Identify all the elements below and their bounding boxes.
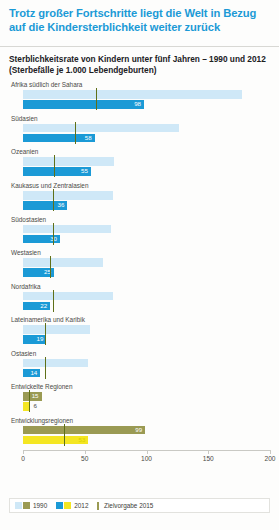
chart-group: Entwicklungsregionen9953 — [9, 417, 270, 451]
chart-group: Kaukasus und Zentralasien36 — [9, 182, 270, 216]
bar-1990: 99 — [23, 426, 145, 435]
bar-1990 — [23, 292, 113, 301]
bar-value-2012: 22 — [40, 302, 47, 311]
target-line-2015 — [29, 390, 30, 412]
target-line-2015 — [53, 290, 54, 312]
page-title: Trotz großer Fortschritte liegt die Welt… — [9, 7, 270, 34]
chart-group: Ostasien14 — [9, 350, 270, 384]
bar-track: 19 — [23, 325, 270, 350]
chart-group: Nordafrika22 — [9, 283, 270, 317]
bar-track: 9953 — [23, 426, 270, 451]
bar-value-2012: 58 — [85, 134, 92, 143]
legend-swatch-1990-olive — [23, 502, 30, 509]
bar-track: 55 — [23, 157, 270, 182]
chart-subtitle: Sterblichkeitsrate von Kindern unter fün… — [0, 47, 279, 75]
bar-track: 98 — [23, 90, 270, 115]
chart-group: Südostasien30 — [9, 216, 270, 250]
x-axis-tick-label: 0 — [21, 455, 25, 462]
bar-1990 — [23, 90, 242, 99]
x-axis-tick-label: 100 — [141, 455, 152, 462]
bar-2012: 30 — [23, 235, 60, 244]
bar-1990 — [23, 191, 113, 200]
x-axis-tick — [147, 450, 148, 454]
bar-1990 — [23, 124, 179, 133]
target-line-2015 — [75, 122, 76, 144]
x-axis-tick — [208, 450, 209, 454]
bar-value-1990: 99 — [135, 426, 142, 435]
legend-swatch-target-line — [97, 502, 99, 510]
infographic-page: Trotz großer Fortschritte liegt die Welt… — [0, 0, 279, 530]
category-label: Lateinamerika und Karibik — [11, 316, 85, 323]
bar-track: 14 — [23, 359, 270, 384]
legend-label-target: Zielvorgabe 2015 — [104, 502, 153, 509]
bar-value-1990: 15 — [32, 392, 39, 401]
source-footnote — [9, 519, 275, 528]
target-line-2015 — [96, 88, 97, 110]
legend-item-target: Zielvorgabe 2015 — [97, 502, 153, 510]
bar-value-2012: 98 — [134, 100, 141, 109]
bar-track: 30 — [23, 225, 270, 250]
target-line-2015 — [45, 323, 46, 345]
bar-track: 25 — [23, 258, 270, 283]
category-label: Ostasien — [11, 350, 36, 357]
bar-1990 — [23, 325, 90, 334]
bar-value-2012: 53 — [79, 436, 86, 445]
target-line-2015 — [45, 357, 46, 379]
x-axis-tick — [23, 450, 24, 454]
chart-header: Trotz großer Fortschritte liegt die Welt… — [0, 0, 279, 40]
legend-item-2012: 2012 — [56, 502, 88, 509]
bar-1990 — [23, 157, 114, 166]
chart-group: Lateinamerika und Karibik19 — [9, 316, 270, 350]
bar-2012: 53 — [23, 436, 88, 445]
bar-1990 — [23, 258, 103, 267]
x-axis-tick — [85, 450, 86, 454]
category-label: Nordafrika — [11, 283, 40, 290]
legend-label-2012: 2012 — [74, 502, 88, 509]
bar-track: 22 — [23, 292, 270, 317]
chart-group: Südasien58 — [9, 115, 270, 149]
bar-value-2012: 36 — [58, 201, 65, 210]
legend-item-1990: 1990 — [15, 502, 47, 509]
x-axis-tick — [270, 450, 271, 454]
bar-chart: Afrika südlich der Sahara98Südasien58Oze… — [9, 81, 270, 480]
x-axis-tick-label: 150 — [203, 455, 214, 462]
bar-1990: 15 — [23, 392, 42, 401]
category-label: Südasien — [11, 115, 38, 122]
bar-value-2012: 19 — [37, 335, 44, 344]
target-line-2015 — [53, 189, 54, 211]
legend-swatch-2012-yellow — [64, 502, 71, 509]
bar-value-2012: 55 — [81, 167, 88, 176]
bar-2012: 19 — [23, 335, 46, 344]
bar-2012: 36 — [23, 201, 67, 210]
bar-2012: 14 — [23, 369, 40, 378]
target-line-2015 — [53, 223, 54, 245]
category-label: Entwickelte Regionen — [11, 383, 72, 390]
chart-plot-area: Afrika südlich der Sahara98Südasien58Oze… — [9, 81, 270, 450]
target-line-2015 — [54, 155, 55, 177]
bar-2012: 98 — [23, 100, 144, 109]
chart-legend: 1990 2012 Zielvorgabe 2015 — [9, 498, 270, 513]
target-line-2015 — [50, 256, 51, 278]
bar-2012: 22 — [23, 302, 50, 311]
x-axis: 050100150200 — [9, 450, 270, 478]
bar-track: 58 — [23, 124, 270, 149]
bar-1990 — [23, 225, 111, 234]
category-label: Kaukasus und Zentralasien — [11, 182, 88, 189]
bar-1990 — [23, 359, 88, 368]
category-label: Südostasien — [11, 216, 46, 223]
chart-group: Ozeanien55 — [9, 148, 270, 182]
legend-swatch-2012-blue — [56, 502, 63, 509]
x-axis-tick-label: 50 — [81, 455, 88, 462]
category-label: Westasien — [11, 249, 41, 256]
category-label: Ozeanien — [11, 148, 38, 155]
x-axis-tick-label: 200 — [264, 455, 275, 462]
legend-label-1990: 1990 — [33, 502, 47, 509]
bar-track: 156 — [23, 392, 270, 417]
target-line-2015 — [64, 424, 65, 446]
chart-group: Afrika südlich der Sahara98 — [9, 81, 270, 115]
bar-2012: 55 — [23, 167, 91, 176]
bar-track: 36 — [23, 191, 270, 216]
category-label: Entwicklungsregionen — [11, 417, 73, 424]
chart-group: Westasien25 — [9, 249, 270, 283]
category-label: Afrika südlich der Sahara — [11, 81, 82, 88]
